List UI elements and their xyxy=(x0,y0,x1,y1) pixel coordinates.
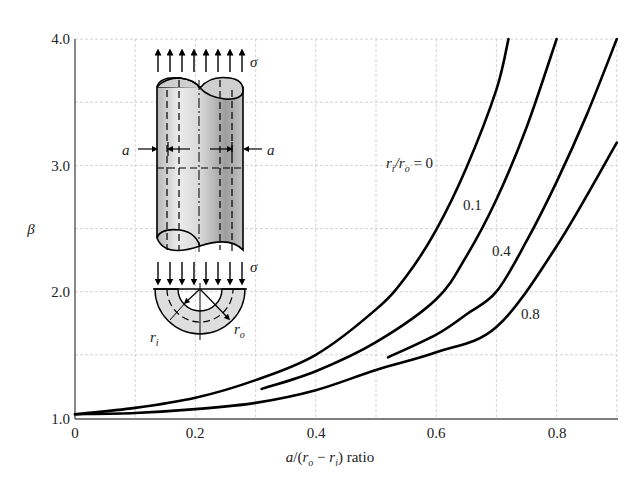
cylinder-body xyxy=(157,87,243,251)
legend-label-0: ri/ro = 0 xyxy=(386,155,433,174)
r-inner-label: ri xyxy=(150,329,159,348)
chart-svg: 4.0 3.0 2.0 1.0 0 0.2 0.4 0.6 0.8 β a/(r… xyxy=(0,0,642,490)
curve-label-08: 0.8 xyxy=(521,306,540,322)
sigma-bottom-label: σ xyxy=(250,259,258,275)
r-outer-label: ro xyxy=(234,321,245,340)
x-tick-02: 0.2 xyxy=(186,425,205,441)
y-tick-labels: 4.0 3.0 2.0 1.0 xyxy=(51,31,70,427)
tension-arrows-bottom xyxy=(158,262,242,282)
y-tick-2: 2.0 xyxy=(51,284,70,300)
a-left-label: a xyxy=(122,142,130,158)
a-right-label: a xyxy=(267,142,275,158)
curve-series-0 xyxy=(75,39,508,414)
x-tick-04: 0.4 xyxy=(307,425,326,441)
y-axis-title: β xyxy=(26,221,35,237)
tension-arrows-top xyxy=(158,52,242,72)
curve-series-1 xyxy=(262,39,557,389)
sigma-top-label: σ xyxy=(250,54,258,70)
x-tick-labels: 0 0.2 0.4 0.6 0.8 xyxy=(71,425,566,441)
y-tick-4: 4.0 xyxy=(51,31,70,47)
cylinder-inset-diagram: σ a a σ ri ro xyxy=(122,52,275,348)
curve-label-04: 0.4 xyxy=(492,243,511,259)
curve-label-01: 0.1 xyxy=(463,197,482,213)
chart-figure: 4.0 3.0 2.0 1.0 0 0.2 0.4 0.6 0.8 β a/(r… xyxy=(0,0,642,490)
x-tick-06: 0.6 xyxy=(427,425,446,441)
x-tick-0: 0 xyxy=(71,425,79,441)
y-tick-3: 3.0 xyxy=(51,158,70,174)
y-tick-1: 1.0 xyxy=(51,411,70,427)
x-axis-title: a/(ro − ri) ratio xyxy=(286,449,374,468)
x-tick-08: 0.8 xyxy=(548,425,567,441)
